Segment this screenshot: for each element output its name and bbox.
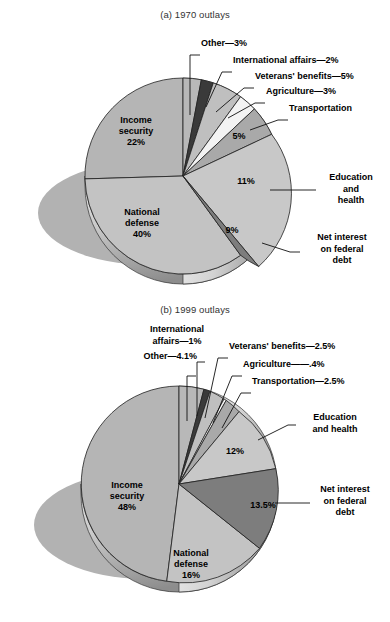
figure-1999-outlays: (b) 1999 outlays: [0, 300, 390, 622]
callout-net-interest-b: Net interest on federal debt: [303, 484, 387, 519]
slice-label-net-interest-pct-b: 13.5%: [243, 500, 283, 511]
slice-label-national-defense-a: National defense 40%: [103, 207, 181, 240]
slice-label-national-defense-b: National defense 16%: [152, 548, 230, 581]
callout-international-affairs-a: International affairs—2%: [233, 55, 339, 67]
callout-agriculture-a: Agriculture—3%: [266, 86, 336, 98]
slice-label-education-pct-a: 11%: [230, 176, 262, 187]
slice-label-net-interest-pct-a: 9%: [218, 225, 246, 236]
callout-veterans-benefits-b: Veterans' benefits—2.5%: [229, 341, 335, 353]
callout-transportation-a: Transportation: [289, 103, 352, 115]
callout-veterans-benefits-a: Veterans' benefits—5%: [255, 71, 354, 83]
callout-net-interest-a: Net interest on federal debt: [299, 232, 385, 267]
slice-label-income-security-b: Income security 48%: [88, 480, 166, 513]
callout-other-b: Other—4.1%: [107, 351, 197, 363]
callout-agriculture-b: Agriculture——.4%: [243, 359, 325, 371]
callout-transportation-b: Transportation—2.5%: [252, 376, 345, 388]
callout-education-health-a: Education and health: [317, 172, 385, 207]
slice-label-transportation-pct-a: 5%: [225, 131, 253, 142]
callout-other-a: Other—3%: [201, 38, 247, 50]
slice-label-education-pct-b: 12%: [219, 446, 251, 457]
callout-education-health-b: Education and health: [293, 412, 377, 435]
callout-international-affairs-b: International affairs—1%: [125, 324, 229, 347]
figure-1970-outlays: (a) 1970 outlays: [0, 0, 390, 300]
slice-label-income-security-a: Income security 22%: [97, 115, 175, 148]
